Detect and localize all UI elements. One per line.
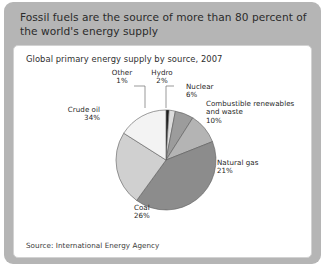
pie-label-nuclear: Nuclear 6%	[186, 83, 230, 100]
leader-line-other	[134, 86, 145, 108]
pie-chart: Other 1% Hydro 2% Nuclear 6% Combustible…	[14, 46, 312, 258]
pie-label-crude-oil: Crude oil 34%	[46, 106, 100, 123]
pie-label-combustible-renewables: Combustible renewables and waste 10%	[206, 100, 296, 125]
pie-label-other: Other 1%	[105, 69, 139, 86]
pie-label-natural-gas: Natural gas 21%	[217, 159, 283, 176]
pie-label-hydro: Hydro 2%	[147, 69, 177, 86]
chart-source-note: Source: International Energy Agency	[26, 241, 159, 250]
pie-leader-lines	[134, 86, 174, 108]
leader-line-hydro	[166, 86, 174, 108]
chart-panel: Global primary energy supply by source, …	[13, 45, 312, 258]
pie-slices	[116, 110, 216, 210]
figure-frame: Fossil fuels are the source of more than…	[4, 2, 321, 264]
figure-heading: Fossil fuels are the source of more than…	[20, 10, 308, 38]
pie-label-coal: Coal 26%	[134, 204, 182, 221]
